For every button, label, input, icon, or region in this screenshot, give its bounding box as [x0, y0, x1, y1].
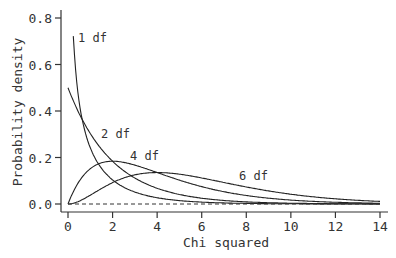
curve-2-df: [68, 88, 380, 204]
x-axis-title: Chi squared: [183, 235, 269, 250]
x-tick-label: 8: [242, 219, 250, 234]
curve-1-df: [73, 36, 380, 204]
curve-label-2-df: 2 df: [101, 127, 130, 141]
x-tick-label: 2: [109, 219, 117, 234]
y-axis-ticks: 0.00.20.40.60.8: [29, 11, 61, 212]
curve-labels: 1 df2 df4 df6 df: [78, 31, 268, 183]
y-tick-label: 0.0: [29, 197, 52, 212]
density-curves: [68, 36, 380, 204]
curve-label-6-df: 6 df: [239, 169, 268, 183]
y-tick-label: 0.2: [29, 151, 52, 166]
curve-label-1-df: 1 df: [78, 31, 107, 45]
y-tick-label: 0.4: [29, 104, 53, 119]
chi-squared-density-chart: 0.00.20.40.60.8 02468101214 1 df2 df4 df…: [0, 0, 396, 258]
x-tick-label: 0: [64, 219, 72, 234]
axes: [61, 10, 388, 212]
x-tick-label: 12: [328, 219, 344, 234]
x-tick-label: 4: [153, 219, 161, 234]
y-tick-label: 0.8: [29, 11, 52, 26]
x-tick-label: 6: [198, 219, 206, 234]
x-tick-label: 14: [372, 219, 388, 234]
x-axis-ticks: 02468101214: [64, 212, 388, 234]
curve-label-4-df: 4 df: [130, 149, 159, 163]
y-axis-title: Probability density: [10, 37, 25, 186]
curve-6-df: [68, 173, 380, 205]
x-tick-label: 10: [283, 219, 299, 234]
y-tick-label: 0.6: [29, 58, 52, 73]
